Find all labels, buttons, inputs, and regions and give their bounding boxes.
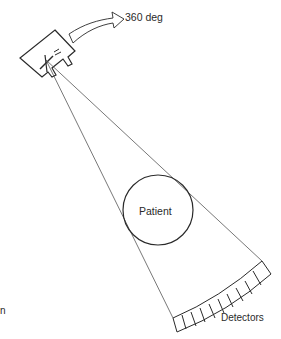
cropped-text-fragment: n: [0, 305, 6, 316]
rotation-label: 360 deg: [125, 11, 163, 23]
diagram-canvas: [0, 0, 281, 339]
fan-beam-left-edge: [46, 60, 173, 318]
detectors-label: Detectors: [221, 312, 264, 323]
rotation-arrow-icon: [69, 12, 124, 43]
patient-label: Patient: [139, 205, 172, 217]
fan-beam-right-edge: [46, 60, 262, 261]
fan-beam: [46, 60, 262, 318]
xray-source-icon: [20, 30, 75, 77]
